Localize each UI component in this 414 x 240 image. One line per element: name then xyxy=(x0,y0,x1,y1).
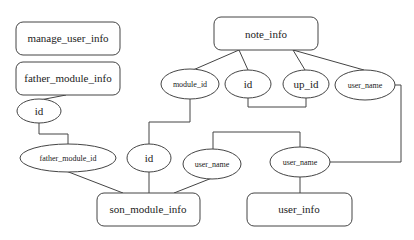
edge-father-id-to-father-module-id xyxy=(39,123,68,144)
attr-user-user-name[interactable]: user_name xyxy=(270,147,330,177)
attr-module-id[interactable]: module_id xyxy=(161,69,219,99)
attr-label: id xyxy=(145,152,154,164)
edge-note-id-to-up-id xyxy=(248,98,306,107)
attr-father-module-id[interactable]: father_module_id xyxy=(20,144,116,172)
entity-manage-user-info[interactable]: manage_user_info xyxy=(16,22,120,55)
er-diagram: manage_user_info father_module_info note… xyxy=(0,0,414,240)
entity-label: father_module_info xyxy=(24,72,112,84)
attr-label: module_id xyxy=(173,80,207,89)
edge-note-info-module-id xyxy=(193,50,239,70)
entity-father-module-info[interactable]: father_module_info xyxy=(16,62,120,95)
entity-note-info[interactable]: note_info xyxy=(214,17,318,50)
entity-son-module-info[interactable]: son_module_info xyxy=(97,193,200,226)
entity-label: user_info xyxy=(278,203,320,215)
entity-label: note_info xyxy=(245,28,288,40)
attr-label: user_name xyxy=(195,160,230,169)
edge-son-user-name-son-module-info xyxy=(174,178,212,193)
attr-son-id[interactable]: id xyxy=(127,144,171,172)
attr-label: up_id xyxy=(293,78,319,90)
entity-user-info[interactable]: user_info xyxy=(247,193,352,226)
edge-module-id-to-son-id xyxy=(149,99,190,144)
attr-up-id[interactable]: up_id xyxy=(283,70,329,98)
entity-label: manage_user_info xyxy=(27,32,109,44)
edge-father-module-id-son-module-info xyxy=(66,171,123,193)
attr-note-user-name[interactable]: user_name xyxy=(335,70,395,100)
attr-label: id xyxy=(244,78,253,90)
attr-note-id[interactable]: id xyxy=(225,70,271,98)
attr-label: father_module_id xyxy=(40,154,97,163)
attr-label: user_name xyxy=(348,81,383,90)
attr-label: user_name xyxy=(283,158,318,167)
attr-son-user-name[interactable]: user_name xyxy=(183,149,241,179)
attr-label: id xyxy=(35,105,44,117)
edge-son-user-name-to-user-name xyxy=(213,132,300,149)
attr-father-id[interactable]: id xyxy=(17,99,61,123)
entity-label: son_module_info xyxy=(110,203,187,215)
edge-note-info-id xyxy=(239,50,248,70)
